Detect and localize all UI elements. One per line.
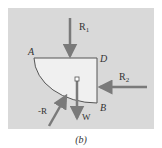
centroid-marker xyxy=(75,77,79,81)
force-w-label: W xyxy=(82,112,91,122)
figure-caption: (b) xyxy=(75,134,87,146)
free-body-diagram: A D B R1 R2 -R W (b) xyxy=(0,0,162,148)
point-d-label: D xyxy=(99,53,108,64)
point-b-label: B xyxy=(100,102,106,113)
point-a-label: A xyxy=(27,46,35,57)
force-neg-r-label: -R xyxy=(38,106,47,116)
